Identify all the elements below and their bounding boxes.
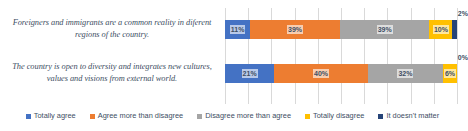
bar-segment: 39%	[340, 20, 430, 39]
legend-item[interactable]: Totally disagree	[305, 111, 364, 121]
legend-swatch-icon	[90, 114, 95, 119]
category-label-1: The country is open to diversity and int…	[4, 61, 220, 84]
legend-item[interactable]: Totally agree	[26, 111, 76, 121]
category-label-0: Foreigners and immigrants are a common r…	[4, 17, 220, 40]
legend-item-label: Totally disagree	[313, 111, 364, 121]
bar-segment-value: 10%	[433, 25, 449, 34]
legend-item-label: Agree more than disagree	[98, 111, 183, 121]
legend-swatch-icon	[26, 114, 31, 119]
bar-segment-value-outside: 0%	[458, 53, 468, 62]
legend-swatch-icon	[305, 114, 310, 119]
legend-swatch-icon	[197, 114, 202, 119]
bar-segment-value: 11%	[230, 25, 246, 34]
bar-segment: 32%	[368, 64, 443, 83]
bar-segment-value: 39%	[287, 25, 303, 34]
bar-segment: 6%	[443, 64, 457, 83]
legend-item-label: Disagree more than agree	[205, 111, 291, 121]
plot-area: 11%39%39%10%2% 21%40%32%6%0%	[225, 8, 457, 104]
chart-legend: Totally agreeAgree more than disagreeDis…	[0, 108, 465, 124]
table-row: 21%40%32%6%0%	[225, 64, 457, 83]
bar-segment: 39%	[250, 20, 340, 39]
bar-segment-value: 32%	[397, 69, 413, 78]
bar-segment: 10%	[429, 20, 452, 39]
legend-item[interactable]: It doesn't matter	[378, 111, 439, 121]
bar-segment: 2%	[452, 20, 457, 39]
category-axis-labels: Foreigners and immigrants are a common r…	[0, 8, 222, 104]
bar-segment: 40%	[274, 64, 368, 83]
legend-swatch-icon	[378, 114, 383, 119]
legend-item[interactable]: Disagree more than agree	[197, 111, 291, 121]
bar-segment-value: 39%	[377, 25, 393, 34]
bar-segment-value: 40%	[313, 69, 329, 78]
bar-segment-value: 21%	[242, 69, 258, 78]
bar-segment: 11%	[225, 20, 250, 39]
bar-segment-value: 6%	[444, 69, 456, 78]
bar-segment-value-outside: 2%	[458, 9, 468, 18]
table-row: 11%39%39%10%2%	[225, 20, 457, 39]
legend-item-label: It doesn't matter	[386, 111, 439, 121]
legend-item-label: Totally agree	[34, 111, 76, 121]
bar-segment: 21%	[225, 64, 274, 83]
legend-item[interactable]: Agree more than disagree	[90, 111, 183, 121]
